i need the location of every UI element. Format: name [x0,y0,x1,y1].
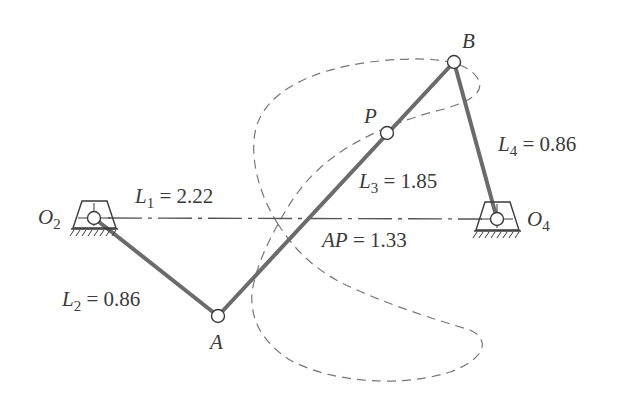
label-p: P [364,106,377,127]
label-a: A [210,332,223,353]
dimension-l4: L4 = 0.86 [498,134,576,159]
label-o4: O4 [527,209,550,234]
ground-link-line [108,218,482,219]
label-b: B [462,31,475,52]
joint-a [212,310,225,323]
joint-o4 [491,213,504,226]
dimension-l1: L1 = 2.22 [135,186,213,211]
link-l4 [454,62,497,219]
four-bar-linkage-diagram [0,0,626,409]
joint-o2 [88,212,101,225]
dimension-ap: AP = 1.33 [322,230,407,251]
coupler-point-p [381,127,394,140]
dimension-l2: L2 = 0.86 [62,289,140,314]
dimension-l3: L3 = 1.85 [359,171,437,196]
joint-b [448,56,461,69]
label-o2: O2 [38,207,61,232]
